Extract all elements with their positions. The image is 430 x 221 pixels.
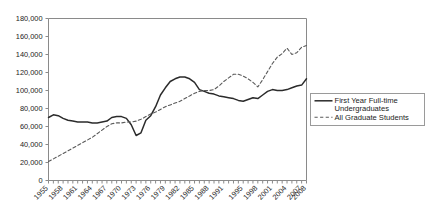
x-axis-tick-label: 2001 [256,184,274,202]
x-axis-tick-label: 1991 [207,184,225,202]
x-axis-tick-label: 1961 [61,184,79,202]
data-series-line-1 [49,77,307,136]
data-series-line-2 [49,46,307,162]
y-axis-tick-label: 80,000 [20,104,43,113]
y-axis-tick-label: 120,000 [16,68,43,77]
x-axis-tick-label: 2004 [270,184,288,202]
x-axis-tick-label: 1998 [241,184,259,202]
plot-frame [49,19,307,181]
x-axis-tick-label: 1988 [193,184,211,202]
y-axis-tick-label: 40,000 [20,140,43,149]
x-axis-tick-label: 1964 [76,184,94,202]
y-axis-tick-label: 20,000 [20,158,43,167]
x-axis-tick-label: 1979 [149,184,167,202]
x-axis-tick-label: 1973 [120,184,138,202]
y-axis-tick-label: 60,000 [20,122,43,131]
x-axis-tick-label: 1970 [105,184,123,202]
x-axis-tick-label: 1958 [47,184,65,202]
x-axis-tick-label: 1982 [163,184,181,202]
y-axis-tick-label: 100,000 [16,86,43,95]
x-axis-tick-label: 1976 [134,184,152,202]
y-axis-tick-label: 180,000 [16,14,43,23]
x-axis-tick-label: 1955 [32,184,50,202]
chart-canvas: 020,00040,00060,00080,000100,000120,0001… [0,0,430,221]
line-chart: 020,00040,00060,00080,000100,000120,0001… [0,0,430,221]
x-axis-tick-label: 1985 [178,184,196,202]
y-axis-tick-label: 160,000 [16,32,43,41]
x-axis-tick-label: 1995 [227,184,245,202]
legend-label-2-line1: All Graduate Students [335,113,409,122]
x-axis-tick-label: 1967 [90,184,108,202]
y-axis-tick-label: 140,000 [16,50,43,59]
